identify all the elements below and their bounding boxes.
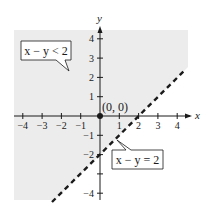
y-axis-label: y (96, 12, 102, 24)
x-tick-label: 1 (117, 120, 122, 131)
y-axis-arrow-icon (98, 26, 103, 33)
x-axis-arrow-icon (185, 114, 192, 119)
callout-inequality-text: x − y < 2 (24, 44, 68, 58)
y-tick-label: 4 (89, 33, 94, 44)
x-tick-label: 4 (175, 120, 180, 131)
x-axis-label: x (194, 109, 200, 121)
x-tick-label: −3 (37, 120, 48, 131)
y-tick-label: −4 (83, 188, 94, 199)
y-tick-label: 2 (89, 72, 94, 83)
x-tick-label: 3 (155, 120, 160, 131)
callout-equation: x − y = 2 (112, 140, 163, 169)
y-tick-label: −1 (83, 130, 94, 141)
y-tick-label: −2 (83, 149, 94, 160)
origin-point-label: (0, 0) (102, 100, 128, 114)
y-tick-label: 1 (89, 91, 94, 102)
chart-canvas: −4 −3 −2 −1 1 2 3 4 4 3 2 1 −1 −2 −4 x y… (0, 0, 209, 211)
y-tick-label: 3 (89, 53, 94, 64)
x-tick-label: −2 (56, 120, 67, 131)
callout-equation-text: x − y = 2 (116, 153, 160, 167)
x-tick-label: 2 (136, 120, 141, 131)
x-tick-label: −4 (17, 120, 28, 131)
